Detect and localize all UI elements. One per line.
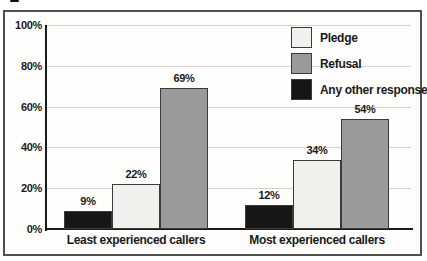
bar-refusal-most-experienced-callers — [341, 119, 389, 229]
legend-label-refusal: Refusal — [320, 57, 361, 71]
x-category-label-least-experienced-callers: Least experienced callers — [36, 233, 236, 247]
bar-pledge-most-experienced-callers — [293, 160, 341, 229]
bar-refusal-least-experienced-callers — [160, 88, 208, 229]
y-tick-label-40: 40% — [2, 141, 42, 153]
legend-label-pledge: Pledge — [320, 31, 358, 45]
gridline-100 — [47, 25, 411, 26]
value-label-refusal-least-experienced-callers: 69% — [144, 71, 224, 85]
legend-swatch-any-other-response — [291, 79, 312, 100]
legend-row-refusal: Refusal — [291, 53, 361, 74]
y-tick-label-80: 80% — [2, 60, 42, 72]
bar-any-other-response-most-experienced-callers — [245, 205, 293, 229]
y-axis — [45, 25, 47, 231]
legend-row-pledge: Pledge — [291, 27, 358, 48]
legend-swatch-pledge — [291, 27, 312, 48]
cropped-caption-fragment — [10, 0, 19, 2]
legend-label-any-other-response: Any other response — [320, 83, 427, 97]
bar-any-other-response-least-experienced-callers — [64, 211, 112, 229]
y-tick-label-60: 60% — [2, 101, 42, 113]
bar-pledge-least-experienced-callers — [112, 184, 160, 229]
x-category-label-most-experienced-callers: Most experienced callers — [217, 233, 417, 247]
y-tick-label-20: 20% — [2, 182, 42, 194]
y-tick-label-100: 100% — [2, 19, 42, 31]
legend-row-any-other-response: Any other response — [291, 79, 427, 100]
legend-swatch-refusal — [291, 53, 312, 74]
value-label-refusal-most-experienced-callers: 54% — [325, 102, 405, 116]
